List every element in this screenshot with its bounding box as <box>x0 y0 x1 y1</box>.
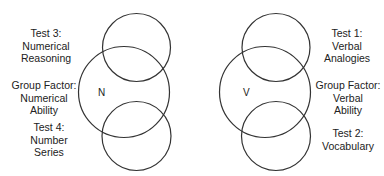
test1-label: Test 1: Verbal Analogies <box>310 27 384 65</box>
test1-line1: Verbal <box>310 40 384 53</box>
verbal-ability-circle <box>220 47 311 138</box>
test4-line2: Series <box>14 146 84 159</box>
group-factor-line1: Verbal <box>312 92 384 105</box>
numerical-ability-circle <box>79 47 170 138</box>
numerical-group-factor-label: Group Factor: Numerical Ability <box>4 79 84 117</box>
test3-line1: Numerical <box>8 40 84 53</box>
group-factor-title: Group Factor: <box>312 79 384 92</box>
factor-letter-n: N <box>98 87 105 98</box>
group-factor-line1: Numerical <box>4 92 84 105</box>
test3-label: Test 3: Numerical Reasoning <box>8 27 84 65</box>
test2-line1: Vocabulary <box>312 140 384 153</box>
test4-label: Test 4: Number Series <box>14 121 84 159</box>
group-factor-line2: Ability <box>312 104 384 117</box>
test2-title: Test 2: <box>312 127 384 140</box>
test3-title: Test 3: <box>8 27 84 40</box>
factor-letter-v: V <box>243 87 250 98</box>
test2-label: Test 2: Vocabulary <box>312 127 384 152</box>
test4-line1: Number <box>14 134 84 147</box>
test1-title: Test 1: <box>310 27 384 40</box>
group-factor-title: Group Factor: <box>4 79 84 92</box>
group-factor-line2: Ability <box>4 104 84 117</box>
test1-line2: Analogies <box>310 52 384 65</box>
test4-title: Test 4: <box>14 121 84 134</box>
test3-line2: Reasoning <box>8 52 84 65</box>
verbal-group-factor-label: Group Factor: Verbal Ability <box>312 79 384 117</box>
